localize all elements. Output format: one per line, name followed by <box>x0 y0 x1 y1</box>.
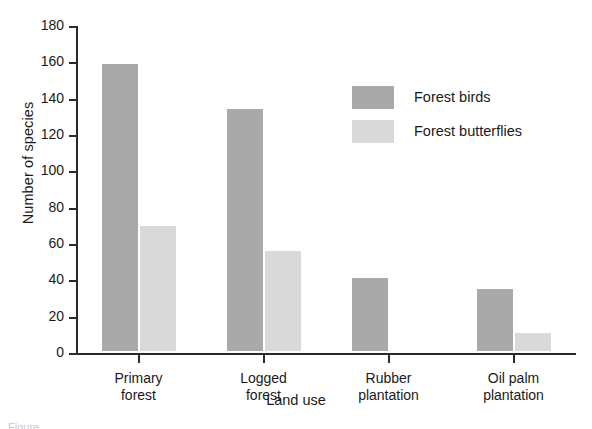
legend-item: Forest birds <box>352 84 522 110</box>
y-axis-tick: 180 <box>69 26 77 28</box>
y-axis-tick: 80 <box>69 208 77 210</box>
y-axis-tick-label: 140 <box>41 90 64 106</box>
bar-forest-butterflies <box>265 251 301 351</box>
bar-forest-birds <box>227 109 263 351</box>
x-axis-tick <box>513 355 515 363</box>
bar-forest-butterflies <box>140 226 176 351</box>
y-axis-tick-label: 40 <box>48 271 64 287</box>
y-axis-tick: 100 <box>69 171 77 173</box>
x-axis-tick <box>388 355 390 363</box>
y-axis-tick-label: 80 <box>48 199 64 215</box>
x-axis-tick <box>263 355 265 363</box>
bar-forest-birds <box>102 64 138 351</box>
legend-label: Forest birds <box>414 89 491 105</box>
y-axis-tick-label: 160 <box>41 53 64 69</box>
legend-item: Forest butterflies <box>352 118 522 144</box>
bar-forest-birds <box>477 289 513 351</box>
bar-group <box>227 24 301 351</box>
y-axis-tick: 160 <box>69 62 77 64</box>
y-axis-tick: 140 <box>69 99 77 101</box>
y-axis-tick: 0 <box>69 353 77 355</box>
y-axis-title: Number of species <box>20 73 36 253</box>
y-axis-line <box>76 26 78 354</box>
bar-group <box>477 24 551 351</box>
bar-forest-butterflies <box>515 333 551 351</box>
y-axis-tick: 20 <box>69 317 77 319</box>
legend-swatch <box>352 86 394 109</box>
legend-swatch <box>352 120 394 143</box>
y-axis-tick-label: 100 <box>41 162 64 178</box>
bar-group <box>352 24 426 351</box>
y-axis-tick-label: 180 <box>41 17 64 33</box>
x-axis-line <box>76 353 576 355</box>
y-axis-tick-label: 0 <box>56 344 64 360</box>
x-axis-tick <box>138 355 140 363</box>
y-axis-tick-label: 60 <box>48 235 64 251</box>
y-axis-tick: 60 <box>69 244 77 246</box>
bar-group <box>102 24 176 351</box>
y-axis-tick-label: 20 <box>48 308 64 324</box>
x-axis-title: Land use <box>0 392 592 408</box>
chart-legend: Forest birdsForest butterflies <box>352 84 522 152</box>
bar-chart-figure: Number of species 0204060801001201401601… <box>0 0 592 429</box>
legend-label: Forest butterflies <box>414 123 522 139</box>
y-axis-tick: 120 <box>69 135 77 137</box>
y-axis-tick-label: 120 <box>41 126 64 142</box>
y-axis-tick: 40 <box>69 280 77 282</box>
figure-caption: Figure <box>8 421 39 429</box>
plot-area: 020406080100120140160180 Primary forestL… <box>76 26 576 353</box>
bar-forest-birds <box>352 278 388 351</box>
